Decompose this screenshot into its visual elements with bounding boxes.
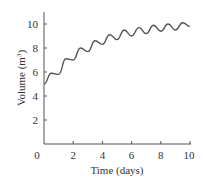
y-tick-2: 2 [33, 114, 39, 126]
x-tick-2: 2 [70, 149, 76, 161]
x-tick-8: 8 [158, 149, 164, 161]
x-tick-10: 10 [184, 149, 196, 161]
x-axis: 0 2 4 6 8 10 Time (days) [34, 141, 195, 177]
volume-chart: 10 8 6 4 2 Volume (m3) 0 2 4 6 8 10 Time… [0, 0, 203, 180]
y-axis-title: Volume (m3) [15, 50, 28, 107]
y-tick-8: 8 [33, 42, 39, 54]
volume-line [44, 23, 190, 84]
y-tick-10: 10 [27, 18, 39, 30]
x-tick-4: 4 [100, 149, 106, 161]
y-axis: 10 8 6 4 2 Volume (m3) [15, 12, 47, 144]
y-tick-4: 4 [33, 90, 39, 102]
x-axis-title: Time (days) [90, 164, 143, 177]
x-tick-6: 6 [129, 149, 135, 161]
y-tick-6: 6 [33, 66, 39, 78]
x-tick-0: 0 [34, 149, 40, 161]
